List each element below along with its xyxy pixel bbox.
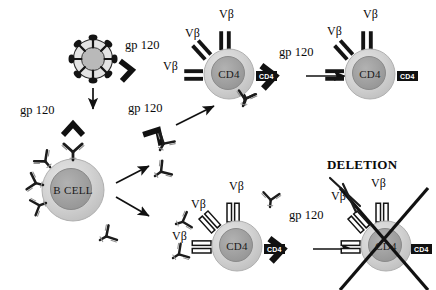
cd4-label-top-right: CD4 [359, 68, 381, 80]
vbeta-label-3: Vβ [163, 60, 178, 72]
arrow-bcell-to-antibodies-down [116, 197, 149, 216]
cd4-badge-deleted: CD4 [411, 244, 432, 254]
gp120-chevron-to-bcell [63, 124, 83, 135]
vbeta-label-9: Vβ [371, 177, 386, 189]
cd4-badge-bottom-mid: CD4 [264, 244, 285, 254]
deletion-label: DELETION [327, 158, 397, 171]
vbeta-label-10: Vβ [331, 190, 346, 202]
vbeta-label-4: Vβ [363, 8, 378, 20]
cd4-label-bottom-mid: CD4 [226, 240, 248, 252]
gp120-label-top-right: gp 120 [279, 46, 313, 59]
figure-canvas: gp 120 gp 120 gp 120 gp 120 gp 120 Vβ Vβ… [0, 0, 436, 290]
gp120-chevron-virus [120, 60, 133, 81]
diagram-vector-layer [0, 0, 436, 290]
arrow-to-cd4-top [176, 106, 214, 125]
vbeta-label-1: Vβ [219, 8, 234, 20]
cd4-badge-top-right: CD4 [397, 71, 418, 81]
vbeta-label-5: Vβ [327, 25, 342, 37]
arrow-bcell-to-antibodies-up [116, 166, 149, 183]
vbeta-label-6: Vβ [229, 180, 244, 192]
b-cell-glyph [26, 144, 104, 221]
gp120-label-middle: gp 120 [128, 102, 162, 115]
b-cell-label: B CELL [53, 184, 92, 196]
vbeta-label-8: Vβ [172, 230, 187, 242]
hiv-virion-glyph [69, 35, 118, 84]
cd4-cell-top-mid-glyph [184, 31, 254, 99]
gp120-label-bottom-right: gp 120 [289, 209, 323, 222]
cd4-cell-bottom-mid-glyph [192, 203, 262, 271]
vbeta-label-2: Vβ [185, 27, 200, 39]
vbeta-label-7: Vβ [191, 198, 206, 210]
cd4-label-deleted: CD4 [375, 240, 397, 252]
cd4-label-top-mid: CD4 [218, 68, 240, 80]
gp120-label-to-bcell: gp 120 [20, 104, 54, 117]
cd4-badge-top-mid: CD4 [256, 71, 277, 81]
cd4-cell-top-right-glyph [325, 31, 395, 99]
gp120-label-virus: gp 120 [125, 39, 159, 52]
